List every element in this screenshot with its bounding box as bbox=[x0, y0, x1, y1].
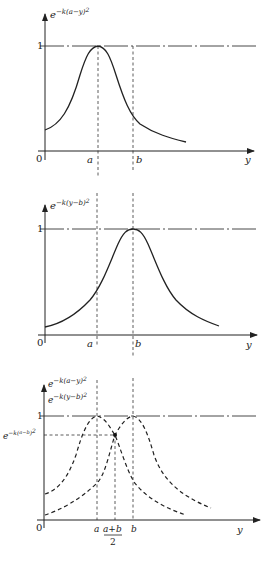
tick-a-label: a bbox=[87, 338, 93, 349]
origin-label: 0 bbox=[36, 522, 42, 533]
one-label: 1 bbox=[37, 40, 43, 51]
panel-3: e−k(a−y)2 e−k(y−b)2 1 e−k(a−b)2 0 a a+b … bbox=[3, 375, 260, 547]
tick-b-label: b bbox=[135, 338, 141, 349]
tick-b-label: b bbox=[131, 524, 137, 534]
gaussian-curve-a bbox=[45, 46, 186, 142]
panel-1: e−k(a−y)2 1 0 a b y bbox=[36, 6, 256, 176]
x-axis-label: y bbox=[245, 339, 252, 350]
y-axis-label-1: e−k(a−y)2 bbox=[48, 375, 87, 389]
tick-a-label: a bbox=[94, 524, 99, 534]
tick-b-label: b bbox=[136, 154, 142, 165]
tick-a-label: a bbox=[87, 154, 93, 165]
one-label: 1 bbox=[37, 411, 43, 421]
tick-midpoint-denominator: 2 bbox=[110, 537, 116, 547]
gaussian-curve-b-dashed bbox=[45, 416, 211, 515]
x-axis-label: y bbox=[236, 524, 243, 535]
panel-2: e−k(y−b)2 1 0 a b y bbox=[37, 193, 257, 356]
gaussian-curve-a-dashed bbox=[45, 416, 186, 515]
intersection-level-label: e−k(a−b)2 bbox=[3, 427, 36, 441]
y-axis-label-2: e−k(y−b)2 bbox=[48, 391, 87, 405]
one-label: 1 bbox=[37, 223, 43, 234]
intersection-point bbox=[113, 433, 117, 437]
gaussian-curve-b bbox=[45, 229, 219, 327]
x-axis-label: y bbox=[244, 154, 251, 165]
y-axis-label: e−k(a−y)2 bbox=[50, 6, 89, 20]
origin-label: 0 bbox=[36, 153, 42, 164]
tick-midpoint-numerator: a+b bbox=[103, 524, 122, 534]
origin-label: 0 bbox=[37, 337, 43, 348]
y-axis-label: e−k(y−b)2 bbox=[50, 197, 90, 211]
diagram-canvas: e−k(a−y)2 1 0 a b y e−k(y−b)2 1 0 a b y bbox=[0, 0, 270, 561]
